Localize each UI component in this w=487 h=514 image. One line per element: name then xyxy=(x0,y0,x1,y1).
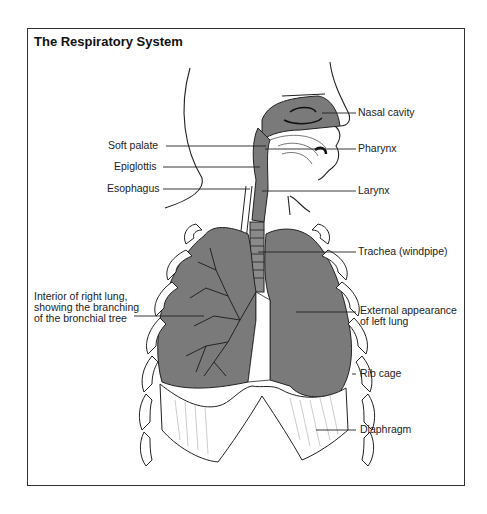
label-epiglottis: Epiglottis xyxy=(114,161,157,172)
label-pharynx: Pharynx xyxy=(358,143,397,154)
label-left-lung: External appearance of left lung xyxy=(360,305,457,327)
pharynx-shape xyxy=(252,128,270,222)
label-larynx: Larynx xyxy=(358,185,390,196)
respiratory-illustration xyxy=(0,0,487,514)
label-diaphragm: Diaphragm xyxy=(360,424,411,435)
label-left-lung-line2: of left lung xyxy=(360,316,457,327)
nasal-cavity-shape xyxy=(262,96,340,140)
label-right-lung-line3: of the bronchial tree xyxy=(34,313,139,324)
label-right-lung: Interior of right lung, showing the bran… xyxy=(34,291,139,324)
label-rib-cage: Rib cage xyxy=(360,368,401,379)
label-soft-palate: Soft palate xyxy=(108,140,158,151)
right-lung-shape xyxy=(158,228,256,389)
label-nasal-cavity: Nasal cavity xyxy=(358,107,415,118)
head-outline xyxy=(165,68,202,208)
label-esophagus: Esophagus xyxy=(107,183,160,194)
left-lung-shape xyxy=(265,229,352,397)
label-trachea: Trachea (windpipe) xyxy=(358,246,448,257)
